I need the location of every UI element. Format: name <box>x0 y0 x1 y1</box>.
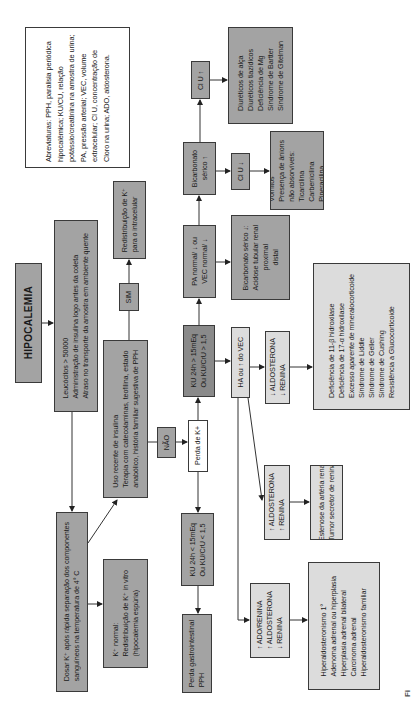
node-line: Diuréticos de alça <box>236 41 246 111</box>
low-aldo-causes-box: Deficiência de 11-β hidroxilase Deficiên… <box>313 263 410 410</box>
k-normal-box: K⁺ normal: Redistribuição de K⁺ in vitro… <box>103 559 148 668</box>
node-line: Tumor secretor de renina <box>327 465 337 540</box>
bicarb-low-box: Bicarbonato sérico ↓: Acidose tubular re… <box>231 215 290 300</box>
node-line: Síndrome de Liddle <box>357 274 367 398</box>
node-line: Estenose da artéria renal <box>317 465 327 540</box>
node-line: anabólico, história familiar sugestiva d… <box>131 350 141 488</box>
node-line: Síndrome de Cushing <box>377 274 387 398</box>
node-line: Hiperaldosteronismo 1° <box>319 576 329 677</box>
node-line: Ou KU/CrU < 1,5 <box>198 523 208 577</box>
node-line: Deficiência de Mg <box>256 41 266 111</box>
node-line: ↑ RENINA <box>277 473 287 531</box>
node-line: para o intracelular <box>130 188 140 252</box>
clu-low-box: Cl U ↓ <box>231 153 250 190</box>
node-line: ↓ RENINA <box>275 591 285 649</box>
abbreviations-text: Abreviaturas: PPH, paralisia periódica h… <box>43 34 112 162</box>
node-line: K⁺ normal: <box>111 570 121 657</box>
node-line: ↑ ADO/RENINA <box>255 591 265 649</box>
node-line: Hiperaldosteronismo familiar <box>359 576 369 677</box>
clu-high-causes-box: Diuréticos de alça Diuréticos tiazídicos… <box>228 27 293 124</box>
figure-caption: Fi <box>403 690 412 697</box>
node-line: Deficiência de 11-β hidroxilase <box>327 274 337 398</box>
node-line: ↓ ALDOSTERONA <box>268 338 278 396</box>
node-line: ↓ RENINA <box>278 338 288 396</box>
ku-high-box: KU 24h > 15mEq Ou KU/CrU > 1,5 <box>183 325 215 397</box>
node-line: VEC normal/ ↓ <box>200 237 210 286</box>
node-line: PA normal/ ↓ ou <box>190 237 200 286</box>
node-line: KU 24h > 15mEq <box>189 334 199 388</box>
node-line: Redistribuição de K⁺ <box>120 188 130 252</box>
gi-loss-box: Perda gastrointestinal PPH <box>182 614 212 693</box>
node-line: Síndrome de Gitelman <box>276 41 286 111</box>
spurious-causes-box: Leucócitos > 50000 Administração de insu… <box>54 220 98 412</box>
node-line: Ticarcilina <box>297 140 307 202</box>
abbreviations-box: Abreviaturas: PPH, paralisia periódica h… <box>25 27 130 168</box>
k-loss-label: Perda de K+ <box>193 426 203 465</box>
ha-vec-label: HA ou ↑ do VEC <box>236 337 246 388</box>
node-line: Piperacilina <box>317 140 324 202</box>
high-aldo-high-renin-box: ↑ ALDOSTERONA ↑ RENINA <box>264 465 290 540</box>
node-line: Presença de ânions <box>277 140 287 202</box>
clu-low-label: Cl U ↓ <box>236 162 246 181</box>
clu-low-causes-box: Vômitos Presença de ânions não absorvíve… <box>270 131 324 210</box>
node-line: (hipocalemia espúria) <box>131 570 141 657</box>
node-line: Atraso no transporte da amostra em ambie… <box>81 233 91 399</box>
node-line: Redistribuição de K⁺ in vitro <box>121 570 131 657</box>
node-line: Hiperplasia adrenal bilateral <box>339 576 349 677</box>
dose-k-box: Dosar K⁺ após rápida separação dos compo… <box>56 512 88 692</box>
node-line: Uso recente de insulina <box>111 350 121 488</box>
low-aldo-low-renin-box: ↓ ALDOSTERONA ↓ RENINA <box>265 331 290 404</box>
node-line: Perda gastrointestinal <box>187 620 197 687</box>
node-line: Bicarbonato sérico ↓: <box>241 225 251 290</box>
high-ado-ratio-box: ↑ ADO/RENINA ↑ ALDOSTERONA ↓ RENINA <box>250 583 290 658</box>
node-line: Ou KU/CrU > 1,5 <box>199 334 209 388</box>
node-line: KU 24h < 15mEq <box>188 523 198 577</box>
clu-high-label: Cl U ↑ <box>196 71 206 90</box>
node-line: Resistência a Glucocorticoide <box>387 274 397 398</box>
node-line: não absorvíveis: <box>287 140 297 202</box>
diagram-title: HIPOCALEMIA <box>24 286 34 359</box>
node-line: Diuréticos tiazídicos <box>246 41 256 111</box>
node-line: PPH <box>197 620 207 687</box>
high-renin-causes-box: Estenose da artéria renal Tumor secretor… <box>310 465 343 540</box>
node-line: Terapia com catecolaminas, teofilina, es… <box>121 350 131 488</box>
node-line: Excesso aparente de mineralocorticoide <box>347 274 357 398</box>
node-line: Adenoma adrenal ou hiperplasia <box>329 576 339 677</box>
node-line: sérico ↑ <box>200 150 210 187</box>
bicarb-high-box: Bicarbonato sérico ↑ <box>183 142 216 195</box>
clu-high-box: Cl U ↑ <box>191 61 210 99</box>
node-line: Carbenicilina <box>307 140 317 202</box>
node-line: Bicarbonato <box>190 150 200 187</box>
node-line: Deficiência de 17-α hidroxilase <box>337 274 347 398</box>
node-line: ↑ ALDOSTERONA <box>267 473 277 531</box>
ku-low-box: KU 24h < 15mEq Ou KU/CrU < 1,5 <box>181 513 214 586</box>
pa-normal-box: PA normal/ ↓ ou VEC normal/ ↓ <box>183 225 216 298</box>
no-box: NÃO <box>157 427 176 458</box>
node-line: Dosar K⁺ após rápida separação dos compo… <box>62 522 72 681</box>
ha-vec-box: HA ou ↑ do VEC <box>231 327 250 398</box>
node-line: Síndrome de Bartter <box>266 41 276 111</box>
node-line: Síndrome de Geller <box>367 274 377 398</box>
no-label: NÃO <box>162 435 172 450</box>
node-line: Leucócitos > 50000 <box>61 233 71 399</box>
hyperaldo-causes-box: Hiperaldosteronismo 1° Adenoma adrenal o… <box>308 562 380 690</box>
node-line: Acidose tubular renal <box>251 225 261 290</box>
yes-label: SIM <box>124 291 134 303</box>
node-line: distal <box>271 225 281 290</box>
title-box: HIPOCALEMIA <box>15 263 42 383</box>
redistribution-box: Redistribuição de K⁺ para o intracelular <box>113 181 146 259</box>
node-line: ↑ ALDOSTERONA <box>265 591 275 649</box>
k-loss-box: Perda de K+ <box>188 420 208 472</box>
node-line: sanguíneos na temperatura de 4° C <box>72 522 82 681</box>
node-line: Administração de insulina logo antes da … <box>71 233 81 399</box>
recent-insulin-box: Uso recente de insulina Terapia com cate… <box>103 340 148 498</box>
node-line: Vômitos <box>270 140 277 202</box>
node-line: Carcinoma adrenal <box>349 576 359 677</box>
yes-box: SIM <box>119 283 139 311</box>
node-line: proximal <box>261 225 271 290</box>
